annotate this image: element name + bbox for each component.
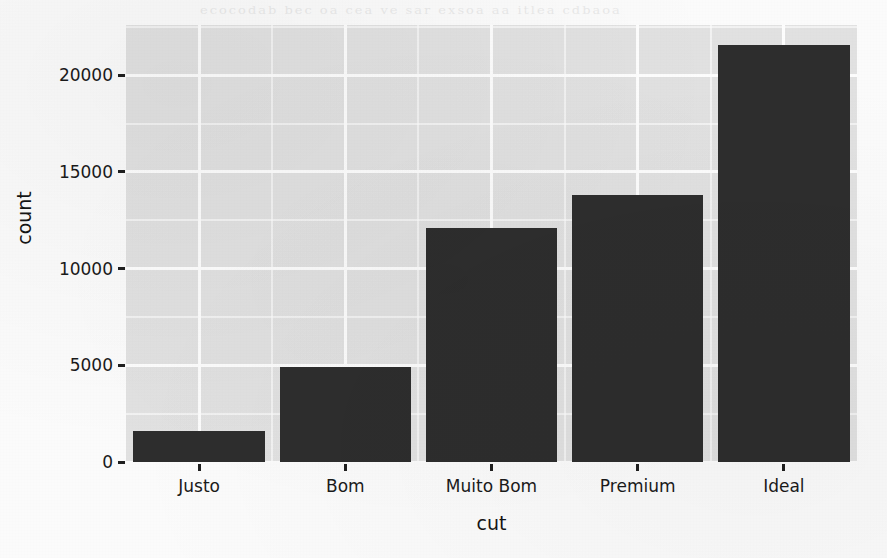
bar [133,431,265,462]
x-axis-tick-label: Ideal [711,478,857,495]
x-axis-tick-label: Muito Bom [418,478,564,495]
y-axis-title: count [13,191,35,245]
x-axis-tick-mark [636,464,639,471]
bar [426,228,558,462]
y-axis-tick-mark [118,364,125,367]
gridline-minor-vertical [271,25,273,462]
bar [572,195,704,462]
x-axis-tick-label: Bom [272,478,418,495]
bar [280,367,412,462]
gridline-minor-vertical [417,25,419,462]
y-axis-tick-label: 0 [102,454,113,471]
x-axis-tick-mark [198,464,201,471]
scanned-page: ecocodab bec oa cea ve sar exsoa aa itle… [0,0,887,558]
y-axis-tick-mark [118,461,125,464]
y-axis-tick-mark [118,267,125,270]
y-axis-tick-label: 20000 [59,67,113,84]
y-axis-tick-label: 5000 [70,357,113,374]
x-axis-tick-label: Justo [126,478,272,495]
x-axis-tick-mark [344,464,347,471]
x-axis-tick-label: Premium [565,478,711,495]
bar [718,45,850,462]
y-axis-tick-label: 10000 [59,261,113,278]
gridline-major-vertical [198,25,201,462]
y-axis-tick-mark [118,170,125,173]
x-axis-tick-mark [490,464,493,471]
x-axis-title: cut [126,512,857,534]
y-axis-tick-mark [118,74,125,77]
gridline-minor-vertical [710,25,712,462]
y-axis-tick-label: 15000 [59,164,113,181]
x-axis-tick-mark [782,464,785,471]
plot-panel [126,25,857,462]
gridline-minor-vertical [564,25,566,462]
bar-chart-figure: 05000100001500020000 count JustoBomMuito… [0,0,887,558]
